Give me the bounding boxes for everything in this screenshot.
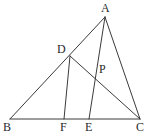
point-label-D: D [57, 43, 66, 55]
geometry-canvas [0, 0, 154, 136]
point-label-B: B [3, 121, 11, 133]
point-label-P: P [99, 63, 106, 75]
point-label-C: C [136, 121, 144, 133]
segments-group [10, 17, 140, 119]
geometry-figure: A B C D P F E [0, 0, 154, 136]
segment-side-ab [10, 17, 105, 119]
segment-segment-df [64, 56, 70, 119]
point-label-F: F [60, 121, 67, 133]
point-label-E: E [85, 121, 92, 133]
point-label-A: A [101, 2, 110, 14]
